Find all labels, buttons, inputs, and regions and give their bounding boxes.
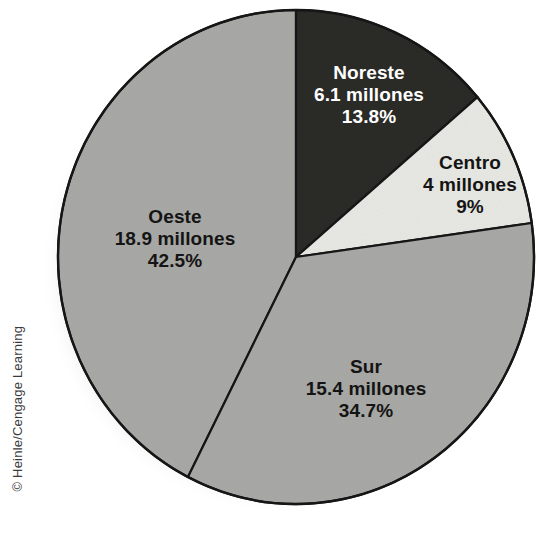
pie-chart-figure: Noreste 6.1 millones 13.8% Centro 4 mill… <box>0 0 542 541</box>
pie-chart-graphic <box>0 0 542 541</box>
copyright-notice: © Heinle/Cengage Learning <box>10 332 25 492</box>
